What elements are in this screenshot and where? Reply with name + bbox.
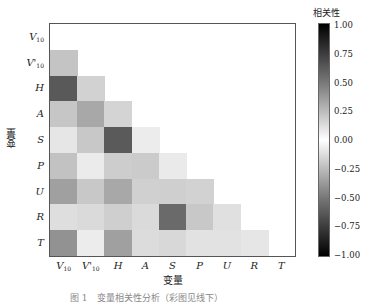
colorbar-tick-label: −0.75 xyxy=(334,221,360,231)
tick-base: A xyxy=(142,260,149,271)
tick-base: U xyxy=(36,186,44,197)
heatmap-cell xyxy=(77,204,105,230)
y-tick-label: P xyxy=(22,160,44,172)
heatmap-cell xyxy=(104,230,132,256)
heatmap-cell xyxy=(50,204,78,230)
heatmap-cell xyxy=(77,153,105,179)
colorbar-tick-label: −0.25 xyxy=(334,164,360,174)
tick-subscript: 10 xyxy=(36,36,44,43)
heatmap-cell xyxy=(213,204,241,230)
colorbar-tick-label: 0.50 xyxy=(334,78,353,88)
heatmap-cell xyxy=(104,101,132,127)
colorbar-tick-label: 1.00 xyxy=(334,20,353,30)
tick-base: V' xyxy=(26,57,36,68)
heatmap-cell xyxy=(77,179,105,205)
heatmap-cell xyxy=(159,179,187,205)
x-tick-label: S xyxy=(159,260,186,272)
x-tick-label: H xyxy=(105,260,132,272)
y-tick-label: V'10 xyxy=(22,57,44,72)
heatmap-cell xyxy=(132,204,160,230)
tick-base: H xyxy=(114,260,123,271)
heatmap-cell xyxy=(132,127,160,153)
y-tick-label: U xyxy=(22,186,44,198)
heatmap-cell xyxy=(50,179,78,205)
tick-subscript: 10 xyxy=(36,62,44,69)
colorbar-tick-label: 0.75 xyxy=(334,49,353,59)
heatmap-cell xyxy=(104,204,132,230)
tick-base: P xyxy=(37,160,44,171)
tick-base: R xyxy=(36,211,44,222)
y-axis-title: 变量 xyxy=(6,128,18,148)
y-tick-label: H xyxy=(22,82,44,94)
tick-base: V' xyxy=(82,260,92,271)
heatmap-cell xyxy=(104,127,132,153)
heatmap-cell xyxy=(50,127,78,153)
heatmap-cell xyxy=(241,230,269,256)
colorbar-tick-label: 0.00 xyxy=(334,135,353,145)
heatmap-cell xyxy=(159,204,187,230)
colorbar-title: 相关性 xyxy=(313,6,340,19)
heatmap-cell xyxy=(132,153,160,179)
tick-base: R xyxy=(250,260,258,271)
heatmap-cell xyxy=(132,230,160,256)
heatmap-cell xyxy=(77,230,105,256)
colorbar-tick-label: −0.50 xyxy=(334,193,360,203)
tick-base: T xyxy=(278,260,285,271)
x-tick-label: T xyxy=(268,260,295,272)
y-tick-label: A xyxy=(22,108,44,120)
tick-base: S xyxy=(37,134,44,145)
colorbar-tick-label: −1.00 xyxy=(334,250,360,260)
tick-subscript: 10 xyxy=(63,265,71,272)
tick-base: T xyxy=(37,237,44,248)
x-axis-title: 变量 xyxy=(150,272,195,287)
heatmap-cell xyxy=(159,153,187,179)
heatmap-cell xyxy=(159,230,187,256)
heatmap-plot-area xyxy=(49,23,296,257)
heatmap-cell xyxy=(77,76,105,102)
tick-base: U xyxy=(223,260,231,271)
heatmap-cell xyxy=(50,230,78,256)
tick-base: A xyxy=(37,108,44,119)
heatmap-cell xyxy=(77,127,105,153)
heatmap-cell xyxy=(186,204,214,230)
heatmap-cell xyxy=(50,101,78,127)
x-tick-label: A xyxy=(132,260,159,272)
colorbar-tick-label: 0.25 xyxy=(334,106,353,116)
heatmap-cell xyxy=(77,101,105,127)
x-tick-label: P xyxy=(186,260,213,272)
y-tick-label: S xyxy=(22,134,44,146)
heatmap-cell xyxy=(50,76,78,102)
tick-subscript: 10 xyxy=(92,265,100,272)
x-tick-label: V'10 xyxy=(77,260,104,275)
heatmap-cell xyxy=(213,230,241,256)
y-tick-label: T xyxy=(22,237,44,249)
heatmap-cell xyxy=(104,153,132,179)
heatmap-cell xyxy=(104,179,132,205)
heatmap-cell xyxy=(50,50,78,76)
y-tick-label: V10 xyxy=(22,31,44,46)
x-tick-label: R xyxy=(241,260,268,272)
tick-base: H xyxy=(35,82,44,93)
colorbar xyxy=(318,23,330,257)
heatmap-cell xyxy=(132,179,160,205)
figure-caption: 图 1 变量相关性分析（彩图见线下） xyxy=(70,291,223,304)
heatmap-cell xyxy=(50,153,78,179)
x-tick-label: U xyxy=(213,260,240,272)
y-tick-label: R xyxy=(22,211,44,223)
heatmap-cell xyxy=(186,230,214,256)
heatmap-cell xyxy=(186,179,214,205)
x-tick-label: V10 xyxy=(50,260,77,275)
tick-base: S xyxy=(169,260,176,271)
tick-base: P xyxy=(196,260,203,271)
